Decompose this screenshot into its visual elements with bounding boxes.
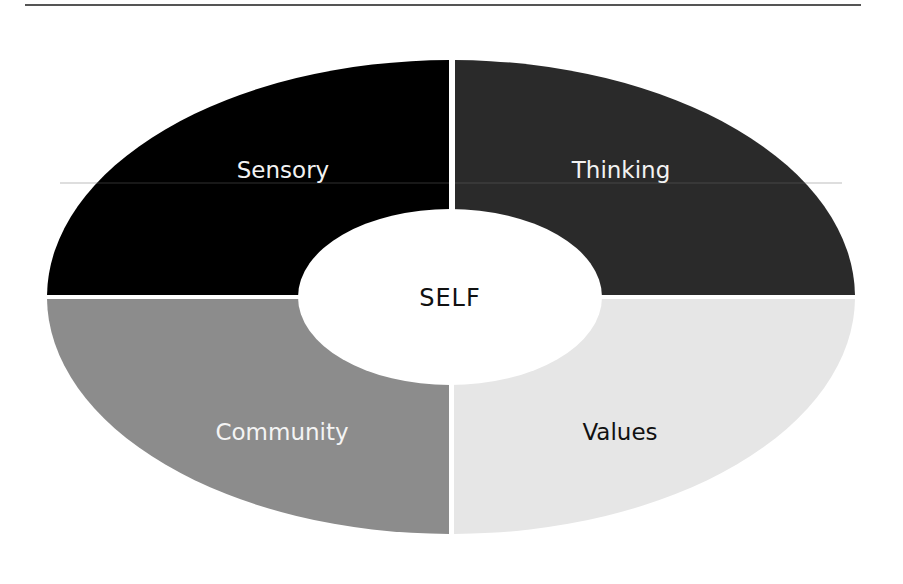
center-label-self: SELF <box>419 284 481 312</box>
segment-label-sensory: Sensory <box>237 157 329 183</box>
self-ring-diagram: Sensory Thinking Community Values SELF <box>0 0 903 584</box>
segment-label-thinking: Thinking <box>571 157 670 183</box>
segment-label-values: Values <box>582 419 657 445</box>
segment-label-community: Community <box>215 419 348 445</box>
